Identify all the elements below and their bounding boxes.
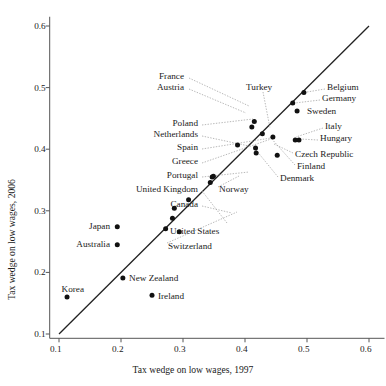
data-point: Hungary	[296, 137, 301, 142]
x-axis-title: Tax wedge on low wages, 1997	[0, 364, 386, 375]
point-label: Netherlands	[0, 130, 198, 139]
point-label: Italy	[325, 122, 342, 131]
y-tick-label: 0.6	[22, 21, 46, 31]
leader-line	[295, 100, 320, 103]
data-point: Finland	[270, 134, 275, 139]
point-label: Portugal	[0, 171, 198, 180]
point-label: Hungary	[320, 134, 352, 143]
data-point: Netherlands	[235, 142, 240, 147]
leader-line	[263, 92, 270, 128]
point-label: United States	[170, 227, 219, 236]
y-axis-title: Tax wedge on low wages, 2006	[6, 179, 17, 300]
point-label: Greece	[0, 157, 198, 166]
data-point: Australia	[115, 242, 120, 247]
leader-line	[202, 172, 249, 177]
leader-line	[256, 150, 278, 177]
leader-line	[202, 119, 253, 125]
data-point: Korea	[65, 295, 70, 300]
point-label: Denmark	[280, 174, 314, 183]
leader-line	[307, 89, 325, 92]
data-point: Sweden	[295, 109, 300, 114]
x-tick-label: 0.4	[236, 344, 247, 354]
scatter-chart: KoreaJapanAustraliaNew ZealandIrelandUni…	[0, 0, 386, 386]
point-label: Canada	[0, 200, 198, 209]
point-label: New Zealand	[129, 274, 178, 283]
y-tick-label: 0.1	[22, 329, 46, 339]
data-point: Belgium	[301, 90, 306, 95]
data-point: Ireland	[150, 293, 155, 298]
data-point: Denmark	[254, 150, 259, 155]
point-label: Austria	[0, 83, 184, 92]
data-point: Japan	[115, 224, 120, 229]
data-point: Canada	[170, 216, 175, 221]
point-label: Germany	[322, 94, 356, 103]
data-point: Germany	[290, 101, 295, 106]
leader-line	[189, 89, 246, 113]
y-tick-label: 0.2	[22, 267, 46, 277]
point-label: United Kingdom	[0, 185, 198, 194]
leader-line	[270, 137, 295, 165]
data-point: Greece	[208, 180, 213, 185]
data-point: United Kingdom	[163, 226, 168, 231]
x-tick-label: 0.6	[360, 344, 371, 354]
leader-line	[202, 139, 271, 163]
point-label: France	[0, 72, 184, 81]
leader-line	[300, 139, 318, 140]
point-label: Finland	[297, 162, 325, 171]
point-label: Turkey	[246, 83, 272, 92]
data-point: Turkey	[260, 131, 265, 136]
x-tick-label: 0.3	[174, 344, 185, 354]
leader-line	[202, 206, 232, 213]
point-label: Czech Republic	[295, 150, 353, 159]
point-label: Norway	[219, 185, 249, 194]
data-point: Austria	[249, 125, 254, 130]
data-point: Norway	[211, 174, 216, 179]
point-label: Switzerland	[168, 242, 212, 251]
data-point: Czech Republic	[275, 153, 280, 158]
point-label: Spain	[0, 143, 198, 152]
point-label: Poland	[0, 119, 198, 128]
x-tick-label: 0.1	[50, 344, 61, 354]
data-point: Poland	[253, 145, 258, 150]
point-label: Ireland	[158, 292, 184, 301]
point-label: Belgium	[327, 83, 359, 92]
leader-line	[189, 78, 249, 106]
data-point: France	[252, 119, 257, 124]
leader-line	[296, 128, 323, 137]
leader-line	[202, 136, 249, 146]
x-tick-label: 0.2	[112, 344, 123, 354]
x-tick-label: 0.5	[298, 344, 309, 354]
point-label: Sweden	[307, 107, 336, 116]
data-point: New Zealand	[120, 275, 125, 280]
